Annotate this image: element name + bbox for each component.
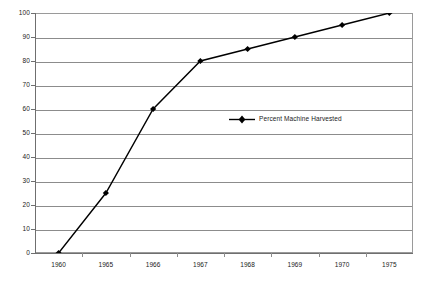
- data-series-layer: [35, 13, 413, 253]
- y-axis: 0102030405060708090100: [0, 0, 30, 290]
- data-point-marker: [292, 34, 298, 40]
- y-tick-label: 0: [6, 250, 30, 257]
- y-tick-mark: [31, 37, 35, 38]
- y-tick-label: 20: [6, 202, 30, 209]
- y-tick-mark: [31, 157, 35, 158]
- x-tick-mark: [271, 253, 272, 257]
- x-tick-label: 1968: [224, 262, 271, 269]
- legend: Percent Machine Harvested: [229, 115, 342, 124]
- series-markers: [56, 13, 393, 253]
- y-tick-label: 50: [6, 130, 30, 137]
- x-tick-label: 1970: [319, 262, 366, 269]
- data-point-marker: [339, 22, 345, 28]
- y-tick-label: 70: [6, 82, 30, 89]
- y-tick-mark: [31, 253, 35, 254]
- data-point-marker: [245, 46, 251, 52]
- x-tick-label: 1966: [130, 262, 177, 269]
- y-tick-mark: [31, 109, 35, 110]
- y-tick-label: 60: [6, 106, 30, 113]
- x-tick-label: 1967: [177, 262, 224, 269]
- y-tick-label: 10: [6, 226, 30, 233]
- y-tick-mark: [31, 229, 35, 230]
- x-tick-mark: [366, 253, 367, 257]
- legend-label: Percent Machine Harvested: [259, 116, 342, 123]
- y-tick-label: 100: [6, 10, 30, 17]
- y-tick-label: 30: [6, 178, 30, 185]
- y-tick-mark: [31, 61, 35, 62]
- x-tick-mark: [130, 253, 131, 257]
- x-tick-mark: [82, 253, 83, 257]
- y-tick-mark: [31, 181, 35, 182]
- x-tick-label: 1969: [271, 262, 318, 269]
- y-tick-mark: [31, 85, 35, 86]
- y-tick-mark: [31, 133, 35, 134]
- line-chart: 0102030405060708090100 19601965196619671…: [0, 0, 441, 290]
- x-tick-label: 1965: [82, 262, 129, 269]
- y-tick-label: 90: [6, 34, 30, 41]
- x-tick-mark: [177, 253, 178, 257]
- x-tick-label: 1975: [366, 262, 413, 269]
- y-tick-mark: [31, 205, 35, 206]
- y-tick-label: 40: [6, 154, 30, 161]
- x-tick-mark: [319, 253, 320, 257]
- series-line-percent-machine-harvested: [59, 13, 390, 253]
- y-tick-label: 80: [6, 58, 30, 65]
- y-tick-mark: [31, 13, 35, 14]
- x-tick-label: 1960: [35, 262, 82, 269]
- x-tick-mark: [224, 253, 225, 257]
- diamond-marker-icon: [229, 115, 255, 124]
- data-point-marker: [386, 13, 392, 16]
